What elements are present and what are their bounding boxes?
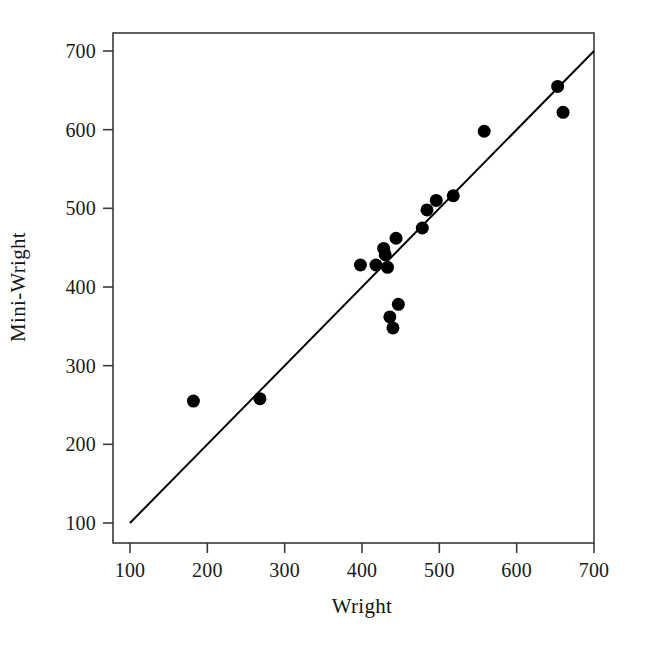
data-point bbox=[354, 258, 367, 271]
x-tick-label: 500 bbox=[424, 560, 455, 580]
data-point bbox=[416, 222, 429, 235]
data-point bbox=[392, 298, 405, 311]
data-point bbox=[478, 125, 491, 138]
data-point bbox=[430, 194, 443, 207]
y-tick-label: 600 bbox=[65, 120, 96, 140]
identity-line bbox=[130, 51, 594, 523]
data-point bbox=[386, 321, 399, 334]
x-tick-label: 600 bbox=[501, 560, 532, 580]
x-tick-label: 100 bbox=[115, 560, 146, 580]
y-axis-tick-marks bbox=[103, 51, 113, 523]
identity-reference-line bbox=[130, 51, 594, 523]
x-tick-label: 300 bbox=[269, 560, 300, 580]
data-point bbox=[390, 232, 403, 245]
x-tick-label: 400 bbox=[347, 560, 378, 580]
y-tick-label: 400 bbox=[65, 277, 96, 297]
data-point bbox=[379, 248, 392, 261]
y-tick-label: 500 bbox=[65, 198, 96, 218]
x-axis-tick-marks bbox=[130, 543, 594, 553]
scatter-plot-figure: 100200300400500600700 100200300400500600… bbox=[0, 0, 649, 646]
x-tick-label: 200 bbox=[192, 560, 223, 580]
plot-canvas bbox=[0, 0, 649, 646]
data-point bbox=[253, 392, 266, 405]
y-tick-label: 200 bbox=[65, 434, 96, 454]
y-tick-label: 100 bbox=[65, 513, 96, 533]
y-tick-label: 700 bbox=[65, 41, 96, 61]
data-point bbox=[187, 395, 200, 408]
data-point bbox=[447, 189, 460, 202]
y-axis-title: Mini-Wright bbox=[6, 167, 31, 407]
data-point bbox=[381, 261, 394, 274]
x-axis-title: Wright bbox=[332, 594, 392, 619]
data-point bbox=[551, 80, 564, 93]
data-point-series bbox=[187, 80, 570, 408]
x-tick-label: 700 bbox=[579, 560, 610, 580]
y-tick-label: 300 bbox=[65, 356, 96, 376]
data-point bbox=[383, 310, 396, 323]
data-point bbox=[369, 258, 382, 271]
data-point bbox=[420, 203, 433, 216]
data-point bbox=[557, 106, 570, 119]
